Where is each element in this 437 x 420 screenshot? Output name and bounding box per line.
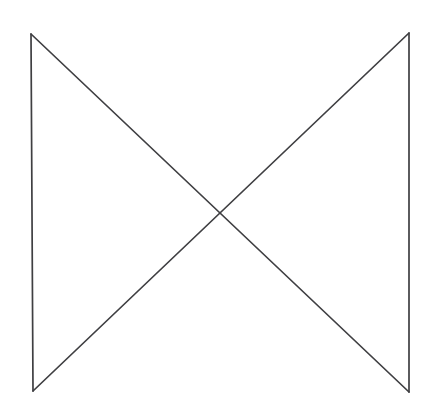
left-vertical-edge — [31, 34, 33, 391]
diagonal-top-right-to-bottom-left — [33, 33, 409, 391]
figure-canvas — [0, 0, 437, 420]
bowtie-figure — [0, 0, 437, 420]
